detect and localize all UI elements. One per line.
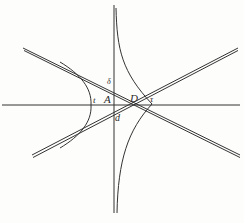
label-d: d (115, 113, 120, 123)
label-delta: δ (107, 78, 111, 86)
label-tau: τ (150, 95, 153, 104)
right-lower-curve (117, 104, 152, 213)
label-A: A (104, 94, 111, 105)
diagram-canvas: δ t A D τ d (0, 0, 244, 223)
label-D: D (130, 93, 138, 104)
right-upper-curve (116, 8, 152, 104)
label-t: t (93, 96, 96, 105)
diagram-figure (0, 0, 244, 223)
